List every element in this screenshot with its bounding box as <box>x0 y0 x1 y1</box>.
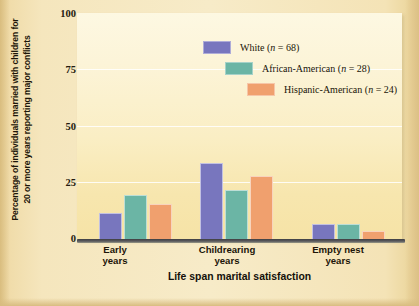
y-tick-label: 50 <box>46 121 76 132</box>
bar-group-early-years <box>99 195 172 240</box>
bar-white-childrearing-years <box>200 163 223 240</box>
x-tick-line2: years <box>172 255 282 266</box>
x-tick-label-empty-nest-years: Empty nest years <box>283 244 393 266</box>
bar-white-early-years <box>99 213 122 240</box>
bar-hispanic-american-early-years <box>149 204 172 240</box>
legend-label-white: White (n = 68) <box>240 42 299 53</box>
y-tick-label: 75 <box>46 64 76 75</box>
bar-african-american-childrearing-years <box>225 190 248 240</box>
page-bottom-shadow <box>0 298 419 306</box>
legend-swatch-hispanic-american <box>247 83 275 96</box>
bar-african-american-early-years <box>124 195 147 240</box>
x-tick-label-early-years: Early years <box>60 244 170 266</box>
x-tick-line2: years <box>60 255 170 266</box>
bar-african-american-empty-nest-years <box>337 224 360 240</box>
legend-swatch-african-american <box>225 62 253 75</box>
x-tick-line2: years <box>283 255 393 266</box>
x-axis-title: Life span marital satisfaction <box>77 271 402 282</box>
legend-label-hispanic-american: Hispanic-American (n = 24) <box>284 84 397 95</box>
plot-area: White (n = 68) African-American (n = 28)… <box>77 13 402 240</box>
legend-item-white[interactable]: White (n = 68) <box>203 41 397 54</box>
bar-group-childrearing-years <box>200 163 273 240</box>
legend-label-african-american: African-American (n = 28) <box>262 63 370 74</box>
bar-hispanic-american-childrearing-years <box>250 176 273 240</box>
legend-swatch-white <box>203 41 231 54</box>
y-axis-tick-labels: 100 75 50 25 0 <box>46 0 76 260</box>
gridline-50 <box>77 126 402 127</box>
y-tick-label: 0 <box>46 233 76 244</box>
legend-item-african-american[interactable]: African-American (n = 28) <box>225 62 397 75</box>
x-tick-line1: Early <box>60 244 170 255</box>
x-tick-label-childrearing-years: Childrearing years <box>172 244 282 266</box>
y-axis-title: Percentage of individuals married with c… <box>10 15 33 225</box>
legend: White (n = 68) African-American (n = 28)… <box>203 41 397 96</box>
x-axis-line <box>77 239 405 243</box>
bar-group-empty-nest-years <box>312 224 385 240</box>
y-tick-label: 25 <box>46 177 76 188</box>
page-right-shadow <box>405 0 419 306</box>
legend-item-hispanic-american[interactable]: Hispanic-American (n = 24) <box>247 83 397 96</box>
x-tick-line1: Empty nest <box>283 244 393 255</box>
y-tick-label: 100 <box>46 8 76 19</box>
bar-white-empty-nest-years <box>312 224 335 240</box>
x-tick-line1: Childrearing <box>172 244 282 255</box>
page-left-shadow <box>0 0 10 306</box>
figure-container: Percentage of individuals married with c… <box>0 0 419 306</box>
